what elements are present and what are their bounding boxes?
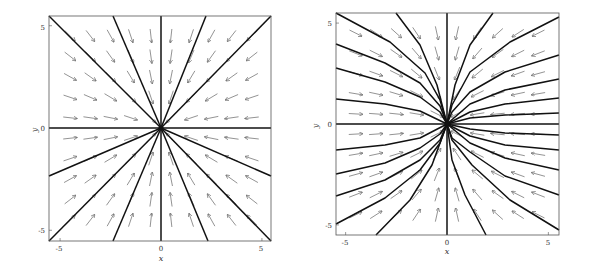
vector-arrow bbox=[350, 212, 363, 218]
vector-arrow bbox=[531, 173, 544, 177]
vector-arrow bbox=[350, 30, 363, 36]
vector-arrow bbox=[208, 214, 215, 226]
phase-portraits: -5 0 5 5 0 -5 x y -5 0 5 5 0 -5 x y bbox=[0, 0, 590, 267]
trajectory-line bbox=[49, 16, 161, 128]
vector-arrow bbox=[207, 51, 215, 62]
vector-arrow bbox=[349, 173, 362, 177]
vector-arrow bbox=[349, 93, 363, 95]
vector-arrow bbox=[170, 172, 173, 186]
vector-arrow bbox=[205, 155, 217, 162]
vector-arrow bbox=[455, 47, 459, 60]
y-axis-label: y bbox=[30, 127, 39, 133]
vector-arrow bbox=[531, 72, 544, 76]
vector-arrow bbox=[511, 172, 524, 177]
y-axis-label: y bbox=[311, 123, 320, 129]
vector-arrow bbox=[227, 30, 236, 41]
vector-arrow bbox=[189, 213, 193, 226]
vector-arrow bbox=[411, 69, 422, 78]
trajectory-line bbox=[336, 124, 447, 150]
y-tick-neg5: -5 bbox=[38, 227, 45, 235]
vector-arrow bbox=[225, 137, 239, 139]
vector-arrow bbox=[150, 29, 152, 43]
vector-arrow bbox=[531, 93, 545, 95]
vector-arrow bbox=[129, 29, 133, 42]
vector-arrow bbox=[412, 48, 421, 59]
vector-arrow bbox=[86, 30, 95, 41]
vector-arrow bbox=[369, 113, 383, 114]
vector-arrow bbox=[455, 188, 459, 201]
trajectory-line bbox=[447, 13, 493, 124]
vector-arrow bbox=[471, 133, 485, 135]
vector-arrow bbox=[512, 50, 525, 56]
vector-arrow bbox=[246, 195, 257, 204]
vector-arrow bbox=[106, 194, 114, 205]
y-tick-neg5: -5 bbox=[325, 222, 332, 230]
vector-arrow bbox=[63, 137, 77, 139]
vector-arrow bbox=[434, 67, 439, 80]
vector-arrow bbox=[150, 193, 152, 207]
vector-arrow bbox=[150, 49, 152, 63]
vector-arrow bbox=[491, 113, 505, 114]
vector-arrow bbox=[413, 209, 421, 221]
x-tick-neg5: -5 bbox=[342, 239, 349, 247]
vector-arrow bbox=[107, 214, 114, 226]
vector-arrow bbox=[369, 172, 382, 177]
vector-arrow bbox=[63, 117, 77, 119]
vector-arrow bbox=[435, 47, 439, 60]
trajectory-line bbox=[161, 16, 271, 128]
vector-arrow bbox=[247, 215, 257, 225]
vector-arrow bbox=[208, 30, 215, 42]
x-tick-neg5: -5 bbox=[56, 245, 63, 253]
vector-arrow bbox=[532, 192, 545, 197]
vector-arrow bbox=[369, 71, 382, 76]
trajectory-line bbox=[161, 16, 206, 128]
vector-arrow bbox=[491, 133, 505, 134]
y-tick-0: 0 bbox=[41, 125, 45, 133]
trajectory-line bbox=[113, 16, 161, 128]
vector-arrow bbox=[349, 114, 363, 115]
vector-arrow bbox=[531, 153, 545, 155]
trajectory-line bbox=[336, 124, 447, 224]
vector-arrow bbox=[170, 193, 172, 207]
vector-arrow bbox=[150, 213, 152, 227]
vector-arrow bbox=[473, 48, 482, 59]
vector-arrow bbox=[105, 155, 117, 162]
vector-arrow bbox=[246, 73, 258, 80]
vector-arrow bbox=[188, 173, 195, 185]
vector-arrow bbox=[456, 208, 459, 222]
vector-arrow bbox=[84, 95, 97, 101]
vector-arrow bbox=[104, 116, 118, 119]
vector-arrow bbox=[189, 29, 193, 42]
vector-arrow bbox=[532, 51, 545, 56]
vector-arrow bbox=[129, 213, 133, 226]
equilibrium-point bbox=[445, 122, 450, 127]
plot-left-star-node: -5 0 5 5 0 -5 x y bbox=[30, 16, 271, 263]
x-axis-label: x bbox=[159, 254, 164, 263]
vector-arrow bbox=[370, 192, 383, 198]
vector-arrow bbox=[511, 153, 525, 156]
vector-arrow bbox=[349, 134, 363, 135]
vector-arrow bbox=[226, 175, 237, 183]
vector-arrow bbox=[225, 117, 239, 119]
vector-arrow bbox=[471, 113, 485, 115]
vector-arrow bbox=[411, 170, 422, 179]
vector-arrow bbox=[435, 26, 438, 40]
x-tick-5: 5 bbox=[546, 239, 550, 247]
vector-arrow bbox=[106, 51, 114, 62]
vector-arrow bbox=[472, 69, 483, 78]
vector-arrow bbox=[512, 192, 525, 198]
vector-arrow bbox=[150, 70, 153, 84]
vector-arrow bbox=[124, 116, 137, 120]
vector-arrow bbox=[246, 176, 258, 183]
vector-arrow bbox=[511, 92, 525, 95]
trajectory-line bbox=[336, 99, 447, 124]
y-tick-5: 5 bbox=[328, 20, 332, 28]
vector-arrow bbox=[64, 156, 77, 160]
vector-arrow bbox=[86, 215, 95, 226]
vector-arrow bbox=[349, 192, 362, 197]
vector-arrow bbox=[205, 94, 217, 101]
trajectories bbox=[336, 13, 559, 235]
vector-arrow bbox=[185, 116, 198, 120]
vector-arrow bbox=[369, 92, 383, 95]
vector-arrow bbox=[188, 71, 195, 83]
